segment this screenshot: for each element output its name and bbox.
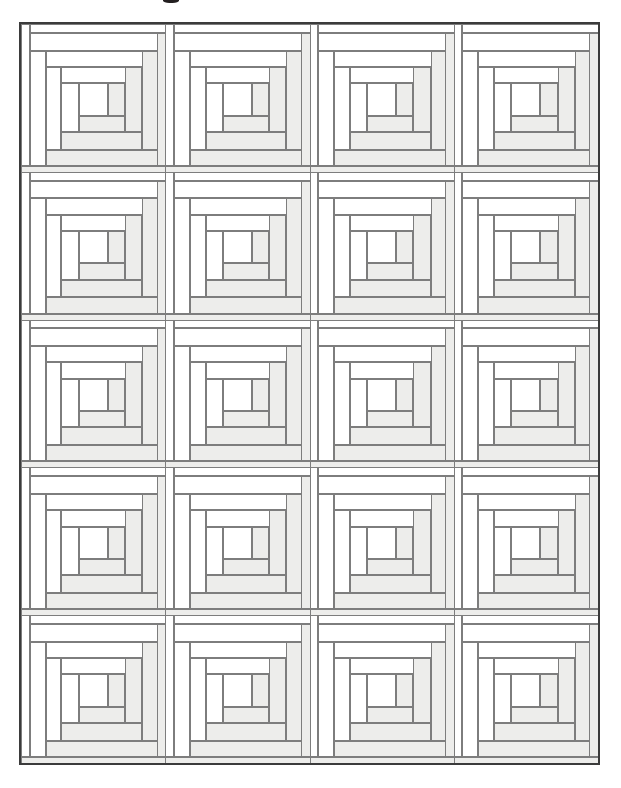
log-17-top-outer	[174, 24, 310, 33]
log-16-left-outer	[454, 615, 463, 757]
block-r3c3	[310, 320, 454, 468]
log-06-right	[269, 510, 286, 575]
log-17-top-outer	[462, 615, 598, 624]
log-06-right	[125, 362, 142, 427]
log-13-top	[30, 476, 166, 494]
log-08-left	[190, 510, 206, 593]
log-09-top	[190, 51, 303, 67]
log-09-top	[46, 346, 159, 362]
log-06-right	[269, 362, 286, 427]
log-08-left	[478, 215, 494, 298]
log-07-bottom	[350, 280, 431, 298]
log-16-left-outer	[21, 615, 30, 757]
log-02-right	[252, 527, 269, 560]
log-16-left-outer	[21, 24, 30, 166]
log-04-left	[206, 379, 223, 428]
log-01-center	[79, 527, 108, 560]
log-13-top	[462, 33, 598, 51]
log-16-left-outer	[454, 24, 463, 166]
log-14-right-outer	[301, 181, 310, 314]
log-09-top	[478, 642, 591, 658]
log-01-center	[79, 379, 108, 412]
log-01-center	[367, 83, 396, 116]
log-07-bottom	[350, 575, 431, 593]
log-08-left	[190, 362, 206, 445]
log-12-left	[318, 346, 334, 461]
log-16-left-outer	[310, 172, 319, 314]
log-11-bottom	[46, 150, 159, 166]
log-12-left	[318, 51, 334, 166]
log-14-right-outer	[301, 624, 310, 757]
log-14-right-outer	[157, 181, 166, 314]
log-07-bottom	[350, 427, 431, 445]
log-06-right	[125, 510, 142, 575]
log-11-bottom	[478, 297, 591, 313]
log-06-right	[413, 510, 430, 575]
log-13-top	[318, 33, 454, 51]
log-07-bottom	[61, 427, 142, 445]
log-03-bottom	[79, 116, 125, 132]
log-12-left	[174, 346, 190, 461]
log-08-left	[334, 362, 350, 445]
log-03-bottom	[367, 116, 413, 132]
log-06-right	[558, 67, 575, 132]
log-03-bottom	[511, 116, 557, 132]
log-04-left	[61, 674, 78, 723]
log-03-bottom	[367, 411, 413, 427]
log-11-bottom	[190, 593, 303, 609]
log-08-left	[190, 658, 206, 741]
log-12-left	[30, 198, 46, 313]
log-13-top	[30, 624, 166, 642]
log-13-top	[30, 328, 166, 346]
log-14-right-outer	[301, 33, 310, 166]
log-16-left-outer	[21, 467, 30, 609]
block-r2c4	[454, 172, 598, 320]
log-03-bottom	[79, 559, 125, 575]
log-17-top-outer	[30, 172, 166, 181]
log-13-top	[462, 476, 598, 494]
log-04-left	[61, 379, 78, 428]
log-09-top	[46, 198, 159, 214]
log-01-center	[223, 527, 252, 560]
log-06-right	[269, 67, 286, 132]
log-07-bottom	[350, 132, 431, 150]
log-02-right	[540, 674, 557, 707]
log-02-right	[540, 379, 557, 412]
log-07-bottom	[494, 132, 575, 150]
log-04-left	[350, 379, 367, 428]
log-04-left	[350, 231, 367, 280]
log-09-top	[334, 642, 447, 658]
log-03-bottom	[511, 263, 557, 279]
log-12-left	[462, 346, 478, 461]
log-11-bottom	[46, 297, 159, 313]
log-13-top	[318, 624, 454, 642]
log-09-top	[478, 51, 591, 67]
log-17-top-outer	[318, 615, 454, 624]
log-07-bottom	[350, 723, 431, 741]
log-13-top	[30, 33, 166, 51]
log-04-left	[350, 527, 367, 576]
log-04-left	[61, 231, 78, 280]
log-16-left-outer	[310, 615, 319, 757]
log-03-bottom	[79, 411, 125, 427]
log-17-top-outer	[174, 172, 310, 181]
log-06-right	[558, 510, 575, 575]
block-r1c1	[21, 24, 165, 172]
log-02-right	[252, 379, 269, 412]
log-01-center	[511, 231, 540, 264]
log-15-bottom-outer	[165, 757, 309, 763]
log-17-top-outer	[174, 615, 310, 624]
log-07-bottom	[206, 723, 287, 741]
log-16-left-outer	[165, 467, 174, 609]
block-r3c1	[21, 320, 165, 468]
log-13-top	[462, 328, 598, 346]
log-14-right-outer	[157, 33, 166, 166]
log-17-top-outer	[462, 467, 598, 476]
log-17-top-outer	[318, 172, 454, 181]
cropped-title-descender-mark	[163, 0, 179, 3]
log-15-bottom-outer	[310, 757, 454, 763]
log-01-center	[367, 674, 396, 707]
log-12-left	[174, 51, 190, 166]
log-16-left-outer	[454, 467, 463, 609]
log-03-bottom	[223, 411, 269, 427]
